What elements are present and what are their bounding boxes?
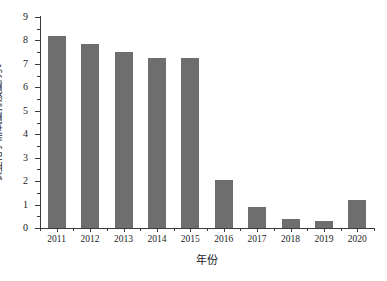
y-tick-major: 5 [35, 111, 40, 112]
y-tick-major: 9 [35, 17, 40, 18]
bar [115, 52, 133, 228]
y-tick-minor [37, 52, 40, 53]
bar-chart-figure: 农业化学需氧量排放量/万t 0123456789 201120122013201… [0, 0, 387, 281]
y-tick-label: 0 [23, 223, 28, 233]
y-tick-minor [37, 29, 40, 30]
x-tick-label: 2020 [348, 235, 367, 245]
x-tick-major [57, 228, 58, 232]
y-tick-minor [37, 169, 40, 170]
bar [215, 180, 233, 228]
x-tick-major [291, 228, 292, 232]
y-tick-label: 1 [23, 200, 28, 210]
x-tick-major [190, 228, 191, 232]
x-tick-minor [274, 228, 275, 231]
y-tick-minor [37, 76, 40, 77]
y-tick-label: 5 [23, 106, 28, 116]
y-tick-major: 3 [35, 158, 40, 159]
y-tick-label: 7 [23, 59, 28, 69]
bar [282, 219, 300, 228]
x-tick-minor [73, 228, 74, 231]
x-tick-label: 2017 [248, 235, 267, 245]
x-tick-major [357, 228, 358, 232]
bar [315, 221, 333, 228]
x-tick-minor [307, 228, 308, 231]
x-tick-minor [374, 228, 375, 231]
y-tick-label: 6 [23, 82, 28, 92]
y-tick-minor [37, 193, 40, 194]
y-tick-major: 1 [35, 205, 40, 206]
y-tick-major: 2 [35, 181, 40, 182]
y-axis-title: 农业化学需氧量排放量/万t [0, 64, 2, 182]
x-tick-major [224, 228, 225, 232]
x-axis-title: 年份 [40, 255, 374, 266]
y-tick-label: 3 [23, 153, 28, 163]
x-tick-minor [174, 228, 175, 231]
x-tick-label: 2014 [147, 235, 166, 245]
bar [181, 58, 199, 228]
y-tick-minor [37, 99, 40, 100]
bar [48, 36, 66, 228]
x-tick-label: 2016 [214, 235, 233, 245]
x-tick-minor [40, 228, 41, 231]
x-tick-minor [207, 228, 208, 231]
x-tick-major [90, 228, 91, 232]
x-tick-label: 2019 [314, 235, 333, 245]
x-tick-minor [107, 228, 108, 231]
x-tick-label: 2013 [114, 235, 133, 245]
y-tick-major: 4 [35, 134, 40, 135]
x-tick-minor [341, 228, 342, 231]
y-tick-minor [37, 123, 40, 124]
x-tick-label: 2015 [181, 235, 200, 245]
y-tick-major: 6 [35, 87, 40, 88]
x-tick-major [157, 228, 158, 232]
x-tick-label: 2012 [81, 235, 100, 245]
y-tick-major: 8 [35, 40, 40, 41]
x-tick-label: 2011 [47, 235, 66, 245]
x-tick-label: 2018 [281, 235, 300, 245]
x-tick-major [257, 228, 258, 232]
plot-area: 0123456789 [40, 17, 374, 228]
y-tick-label: 9 [23, 12, 28, 22]
bar [248, 207, 266, 228]
x-tick-minor [140, 228, 141, 231]
y-tick-label: 2 [23, 176, 28, 186]
x-tick-minor [240, 228, 241, 231]
y-tick-label: 8 [23, 35, 28, 45]
x-tick-major [124, 228, 125, 232]
y-tick-major: 7 [35, 64, 40, 65]
y-tick-minor [37, 216, 40, 217]
x-tick-major [324, 228, 325, 232]
y-tick-minor [37, 146, 40, 147]
y-tick-label: 4 [23, 129, 28, 139]
bar [348, 200, 366, 228]
bar [148, 58, 166, 228]
bar [81, 44, 99, 228]
